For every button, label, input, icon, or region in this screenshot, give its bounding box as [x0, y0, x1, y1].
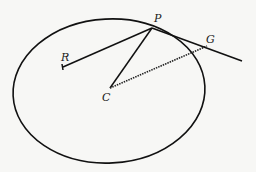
r-endpoint-tick [62, 64, 63, 70]
label-g: G [206, 33, 215, 46]
label-p: P [153, 12, 162, 25]
tangent-line [152, 28, 242, 61]
label-c: C [102, 91, 111, 104]
label-r: R [60, 51, 69, 64]
ellipse-diagram: P R C G [0, 0, 256, 172]
